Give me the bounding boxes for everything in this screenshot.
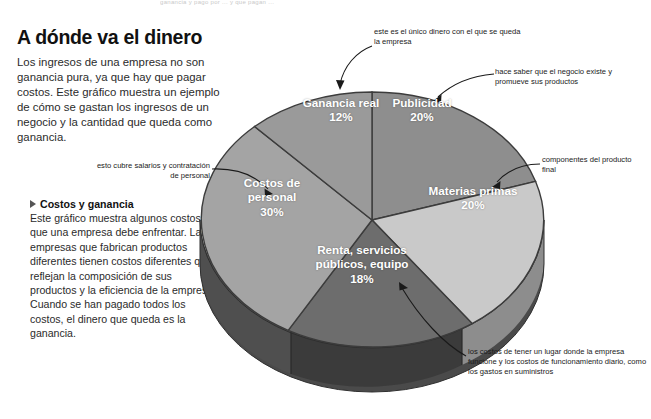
- pie-label-costos-line2: personal: [226, 190, 318, 204]
- pie-label-materias-primas-pct: 20%: [414, 198, 532, 212]
- pie-label-renta-servicios: Renta, servicios públicos, equipo 18%: [292, 243, 432, 286]
- callout-materias-primas: componentes del producto final: [542, 155, 647, 175]
- pie-label-materias-primas: Materias primas 20%: [414, 184, 532, 213]
- pie-label-ganancia-real: Ganancia real 12%: [286, 96, 396, 125]
- pie-label-costos-personal: Costos de personal 30%: [226, 176, 318, 219]
- pie-label-ganancia-name: Ganancia real: [286, 96, 396, 110]
- callout-costos-personal: esto cubre salarios y contratación de pe…: [90, 161, 210, 181]
- pie-label-renta-line1: Renta, servicios: [292, 243, 432, 257]
- pie-label-renta-line2: públicos, equipo: [292, 257, 432, 271]
- callout-ganancia-real: este es el único dinero con el que se qu…: [374, 27, 524, 47]
- pie-top-face: [201, 92, 543, 347]
- callout-publicidad: hace saber que el negocio existe y promu…: [495, 67, 635, 87]
- pie-label-costos-line1: Costos de: [226, 176, 318, 190]
- callout-renta-servicios: los costos de tener un lugar donde la em…: [468, 347, 648, 377]
- leader-ganancia-real: [340, 46, 372, 84]
- infographic-page: ganancia y pago por ... y que pagan ... …: [0, 0, 651, 419]
- pie-label-renta-pct: 18%: [292, 272, 432, 286]
- pie-label-materias-primas-name: Materias primas: [414, 184, 532, 198]
- pie-label-ganancia-pct: 12%: [286, 110, 396, 124]
- leader-publicidad: [438, 74, 494, 97]
- pie-label-costos-pct: 30%: [226, 205, 318, 219]
